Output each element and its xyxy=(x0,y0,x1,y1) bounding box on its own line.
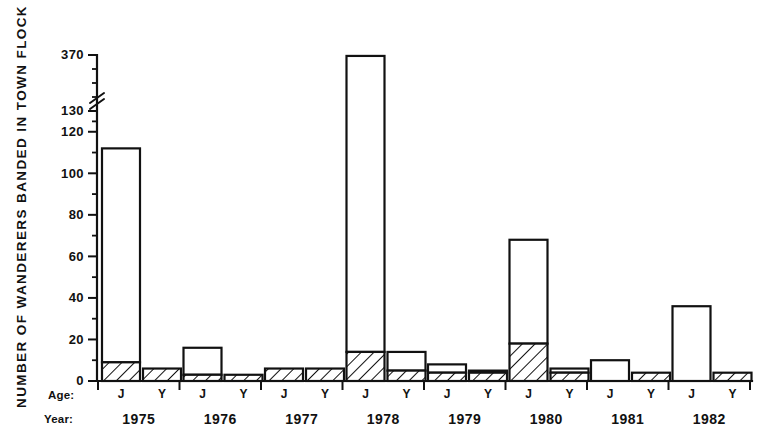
age-label-1977-J: J xyxy=(281,387,288,401)
bars-group xyxy=(102,56,752,381)
age-label-1979-Y: Y xyxy=(484,387,492,401)
bar-1980-J xyxy=(510,240,548,381)
y-tick-label: 80 xyxy=(69,207,84,222)
bar-1979-J xyxy=(428,364,466,381)
row-label-age: Age: xyxy=(48,389,74,401)
bar-segment-open xyxy=(673,306,711,381)
y-axis-title: NUMBER OF WANDERERS BANDED IN TOWN FLOCK xyxy=(14,5,29,408)
year-row-label: Year: xyxy=(44,413,73,425)
y-tick-130: 130 xyxy=(61,103,97,118)
y-tick-label: 130 xyxy=(61,103,84,118)
year-label-1977: 1977 xyxy=(285,411,318,427)
bar-1978-J xyxy=(347,56,385,381)
age-label-1981-Y: Y xyxy=(647,387,655,401)
age-label-1982-J: J xyxy=(688,387,695,401)
bar-segment-hatched xyxy=(714,373,752,381)
y-tick-label: 100 xyxy=(61,166,84,181)
y-tick-label: 370 xyxy=(61,47,84,62)
y-tick-60: 60 xyxy=(69,249,97,264)
bar-1980-Y xyxy=(551,369,589,381)
age-label-1980-Y: Y xyxy=(565,387,573,401)
bar-segment-hatched xyxy=(469,373,507,381)
bar-chart: NUMBER OF WANDERERS BANDED IN TOWN FLOCK… xyxy=(0,0,762,442)
bar-segment-hatched xyxy=(225,375,263,381)
year-label-1976: 1976 xyxy=(204,411,237,427)
age-label-1977-Y: Y xyxy=(321,387,329,401)
bar-segment-open xyxy=(184,348,222,375)
y-tick-label: 0 xyxy=(76,373,84,388)
bar-segment-hatched xyxy=(306,369,344,381)
bar-1976-J xyxy=(184,348,222,381)
age-label-1975-Y: Y xyxy=(158,387,166,401)
bar-1982-J xyxy=(673,306,711,381)
age-label-1976-J: J xyxy=(199,387,206,401)
year-label-1978: 1978 xyxy=(367,411,400,427)
y-tick-0: 0 xyxy=(76,373,97,388)
age-label-1982-Y: Y xyxy=(728,387,736,401)
age-label-1980-J: J xyxy=(525,387,532,401)
bar-segment-hatched xyxy=(143,369,181,381)
age-row-label: Age: xyxy=(48,389,74,401)
bar-1977-Y xyxy=(306,369,344,381)
bar-1975-J xyxy=(102,148,140,381)
bar-segment-open xyxy=(428,364,466,372)
bar-segment-hatched xyxy=(184,375,222,381)
bar-1975-Y xyxy=(143,369,181,381)
y-axis-title-group: NUMBER OF WANDERERS BANDED IN TOWN FLOCK xyxy=(14,5,29,408)
age-label-1979-J: J xyxy=(444,387,451,401)
bar-1981-Y xyxy=(632,373,670,381)
age-label-1976-Y: Y xyxy=(239,387,247,401)
y-tick-20: 20 xyxy=(69,332,97,347)
y-tick-label: 40 xyxy=(69,290,84,305)
y-tick-100: 100 xyxy=(61,166,97,181)
bar-segment-hatched xyxy=(102,362,140,381)
age-label-1981-J: J xyxy=(607,387,614,401)
bar-segment-open xyxy=(102,148,140,362)
bar-1976-Y xyxy=(225,375,263,381)
bar-segment-hatched xyxy=(428,373,466,381)
bar-1982-Y xyxy=(714,373,752,381)
bar-1978-Y xyxy=(388,352,426,381)
year-label-1980: 1980 xyxy=(530,411,563,427)
age-class-labels: JYJYJYJYJYJYJYJY xyxy=(118,387,737,401)
age-label-1978-J: J xyxy=(362,387,369,401)
bar-1977-J xyxy=(265,369,303,381)
age-label-1978-Y: Y xyxy=(402,387,410,401)
bar-1981-J xyxy=(591,360,629,381)
bar-segment-hatched xyxy=(632,373,670,381)
bar-segment-open xyxy=(591,360,629,381)
y-tick-label: 120 xyxy=(61,124,84,139)
year-labels: 19751976197719781979198019811982 xyxy=(122,411,726,427)
bar-segment-open xyxy=(510,240,548,344)
bar-segment-hatched xyxy=(265,369,303,381)
y-axis-ticks: 020406080100120130370 xyxy=(61,47,97,388)
year-label-1982: 1982 xyxy=(693,411,726,427)
bar-segment-hatched xyxy=(510,344,548,381)
bar-segment-hatched xyxy=(551,373,589,381)
year-label-1981: 1981 xyxy=(611,411,644,427)
age-label-1975-J: J xyxy=(118,387,125,401)
row-label-year: Year: xyxy=(44,413,73,425)
y-tick-label: 20 xyxy=(69,332,84,347)
y-tick-80: 80 xyxy=(69,207,97,222)
bar-segment-hatched xyxy=(347,352,385,381)
y-tick-40: 40 xyxy=(69,290,97,305)
chart-canvas: NUMBER OF WANDERERS BANDED IN TOWN FLOCK… xyxy=(0,0,762,442)
year-label-1975: 1975 xyxy=(122,411,155,427)
bar-segment-open xyxy=(347,56,385,352)
y-tick-label: 60 xyxy=(69,249,84,264)
y-tick-370: 370 xyxy=(61,47,97,62)
y-tick-120: 120 xyxy=(61,124,97,139)
bar-segment-hatched xyxy=(388,371,426,381)
year-label-1979: 1979 xyxy=(448,411,481,427)
bar-segment-open xyxy=(388,352,426,371)
bar-1979-Y xyxy=(469,371,507,381)
